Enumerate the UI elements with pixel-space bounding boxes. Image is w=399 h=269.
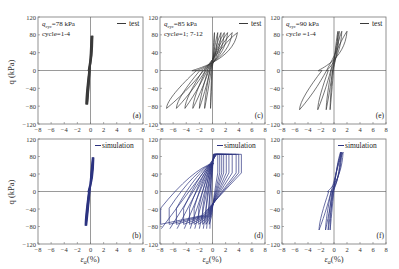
y-tick-label: 40 [274, 49, 281, 56]
x-tick-label: 6 [128, 246, 132, 253]
y-tick-label: 0 [277, 67, 280, 74]
y-tick-label: 80 [30, 31, 37, 38]
y-tick-label: −40 [148, 85, 158, 92]
panel-label: (b) [132, 231, 141, 240]
x-tick-label: −8 [35, 126, 42, 133]
y-tick-label: −80 [148, 223, 158, 230]
y-axis-label-bottom: q (kPa) [6, 179, 16, 204]
legend-label: simulation [102, 141, 134, 150]
x-tick-label: 8 [384, 126, 387, 133]
y-tick-label: 40 [152, 171, 159, 178]
y-tick-label: 120 [26, 136, 36, 143]
y-tick-label: 0 [277, 188, 280, 195]
legend-label: test [372, 19, 383, 28]
y-tick-label: −80 [148, 103, 158, 110]
x-tick-label: 6 [250, 246, 254, 253]
panel-c: −120−80−4004080120−8−6−4−202468test(c)qc… [145, 14, 267, 134]
panel-label: (f) [377, 231, 385, 240]
x-tick-label: 6 [128, 126, 132, 133]
x-axis-label-d: εa(%) [202, 254, 221, 265]
legend-label: test [251, 19, 262, 28]
x-tick-label: 8 [384, 246, 387, 253]
x-tick-label: −2 [196, 246, 203, 253]
y-tick-label: −40 [26, 206, 36, 213]
y-axis-label-top: q (kPa) [6, 59, 16, 84]
x-tick-label: 6 [250, 126, 254, 133]
x-tick-label: 4 [237, 246, 241, 253]
annotation-qcyc: qcyc=85 kPa [164, 20, 198, 29]
y-tick-label: 120 [26, 14, 36, 21]
panel-b: −120−80−4004080120−8−6−4−202468simulatio… [23, 136, 145, 254]
y-tick-label: 40 [30, 171, 37, 178]
x-tick-label: −6 [48, 126, 56, 133]
x-tick-label: −8 [279, 246, 286, 253]
hysteresis-loops [319, 152, 343, 230]
y-tick-label: 120 [270, 14, 280, 21]
x-tick-label: 4 [358, 126, 362, 133]
y-tick-label: −40 [270, 206, 280, 213]
x-tick-label: −8 [35, 246, 42, 253]
y-tick-label: 80 [152, 153, 159, 160]
y-tick-label: 0 [155, 67, 158, 74]
y-tick-label: 120 [148, 136, 158, 143]
x-tick-label: 0 [211, 246, 214, 253]
x-tick-label: 6 [371, 246, 375, 253]
figure: q (kPa) q (kPa) −120−80−4004080120−8−6−4… [0, 0, 399, 269]
x-tick-label: −6 [170, 246, 178, 253]
panel-a: −120−80−4004080120−8−6−4−202468test(a)qc… [23, 14, 145, 134]
y-tick-label: 120 [270, 136, 280, 143]
x-tick-label: −6 [170, 126, 178, 133]
panel-label: (c) [255, 111, 264, 120]
x-tick-label: 2 [224, 126, 227, 133]
y-tick-label: 80 [30, 153, 37, 160]
x-tick-label: 2 [224, 246, 227, 253]
panel-label: (e) [376, 111, 385, 120]
x-tick-label: 0 [89, 126, 92, 133]
y-tick-label: −80 [26, 103, 36, 110]
x-tick-label: −8 [157, 126, 164, 133]
x-tick-label: −6 [48, 246, 56, 253]
y-tick-label: 0 [33, 188, 36, 195]
annotation-qcyc: qcyc=78 kPa [42, 20, 76, 29]
x-tick-label: −4 [61, 246, 69, 253]
x-tick-label: 6 [371, 126, 375, 133]
y-tick-label: 80 [274, 153, 281, 160]
x-tick-label: 4 [358, 246, 362, 253]
x-tick-label: 2 [102, 246, 105, 253]
x-tick-label: 2 [345, 126, 348, 133]
panel-e: −120−80−4004080120−8−6−4−202468test(e)qc… [267, 14, 388, 134]
annotation-cycle: cycle=1; 7-12 [164, 30, 203, 38]
x-tick-label: −4 [305, 126, 313, 133]
y-tick-label: 40 [30, 49, 37, 56]
svg-text:εa(%): εa(%) [202, 254, 221, 265]
x-tick-label: −4 [61, 126, 69, 133]
x-tick-label: −2 [318, 246, 325, 253]
x-tick-label: 0 [211, 126, 214, 133]
y-tick-label: 80 [152, 31, 159, 38]
x-tick-label: −8 [157, 246, 164, 253]
panel-label: (a) [133, 111, 142, 120]
legend-label: simulation [345, 141, 377, 150]
y-tick-label: 80 [274, 31, 281, 38]
x-tick-label: 0 [332, 126, 335, 133]
x-tick-label: −2 [196, 126, 203, 133]
panel-d: −120−80−4004080120−8−6−4−202468simulatio… [145, 136, 267, 254]
legend-label: simulation [224, 141, 256, 150]
x-tick-label: −4 [305, 246, 313, 253]
y-tick-label: −40 [270, 85, 280, 92]
y-tick-label: −40 [148, 206, 158, 213]
x-tick-label: −4 [183, 126, 191, 133]
x-tick-label: −2 [74, 246, 81, 253]
x-axis-label-b: εa(%) [80, 254, 99, 265]
x-tick-label: 4 [115, 246, 119, 253]
x-tick-label: 0 [332, 246, 335, 253]
legend-label: test [129, 19, 140, 28]
y-tick-label: 120 [148, 14, 158, 21]
annotation-cycle: cycle=1-4 [42, 30, 71, 38]
x-tick-label: 2 [345, 246, 348, 253]
panel-f: −120−80−4004080120−8−6−4−202468simulatio… [267, 136, 388, 254]
y-tick-label: 40 [274, 171, 281, 178]
x-tick-label: −8 [279, 126, 286, 133]
annotation-qcyc: qcyc=90 kPa [286, 20, 320, 29]
y-tick-label: 0 [33, 67, 36, 74]
